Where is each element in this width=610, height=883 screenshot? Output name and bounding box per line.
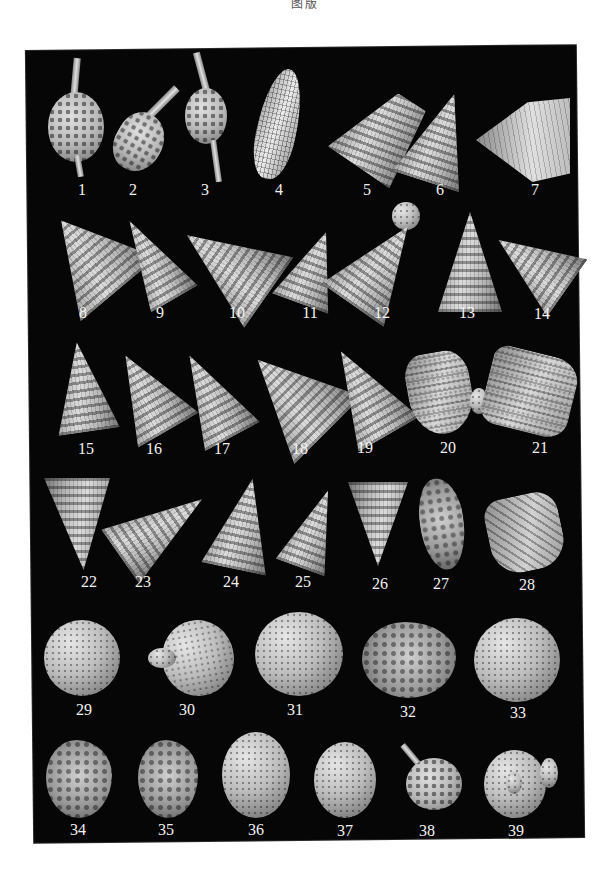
specimen-body-icon <box>255 612 343 696</box>
specimen-body-icon <box>185 88 227 144</box>
specimen-label-8: 8 <box>79 305 87 321</box>
specimen-label-20: 20 <box>440 440 456 456</box>
specimen-label-27: 27 <box>433 576 449 592</box>
specimen-body-icon <box>44 620 120 696</box>
central-boss-icon <box>506 772 522 794</box>
specimen-label-21: 21 <box>532 440 548 456</box>
specimen-label-2: 2 <box>129 182 137 198</box>
specimen-label-23: 23 <box>135 574 151 590</box>
specimen-body-icon <box>314 742 376 818</box>
specimen-label-24: 24 <box>223 574 239 590</box>
specimen-label-9: 9 <box>156 305 164 321</box>
specimen-process-icon <box>148 648 176 668</box>
specimen-label-37: 37 <box>337 823 353 839</box>
specimen-label-11: 11 <box>302 305 317 321</box>
specimen-label-14: 14 <box>534 306 550 322</box>
specimen-label-30: 30 <box>179 702 195 718</box>
specimen-label-19: 19 <box>357 440 373 456</box>
specimen-label-12: 12 <box>374 305 390 321</box>
plate-header: 图版 <box>0 0 610 12</box>
specimen-label-31: 31 <box>287 702 303 718</box>
specimen-cap-icon <box>392 202 420 230</box>
specimen-label-16: 16 <box>146 441 162 457</box>
specimen-label-10: 10 <box>229 305 245 321</box>
specimen-process-icon <box>540 758 558 788</box>
specimen-body-icon <box>406 758 462 810</box>
specimen-label-15: 15 <box>78 441 94 457</box>
specimen-label-5: 5 <box>363 182 371 198</box>
specimen-label-7: 7 <box>531 182 539 198</box>
specimen-label-29: 29 <box>76 702 92 718</box>
specimen-label-25: 25 <box>295 574 311 590</box>
specimen-label-28: 28 <box>519 577 535 593</box>
specimen-label-1: 1 <box>78 182 86 198</box>
specimen-label-13: 13 <box>459 305 475 321</box>
specimen-label-3: 3 <box>201 182 209 198</box>
specimen-label-39: 39 <box>508 823 524 839</box>
specimen-label-35: 35 <box>158 822 174 838</box>
specimen-label-32: 32 <box>400 704 416 720</box>
specimen-label-6: 6 <box>436 182 444 198</box>
specimen-label-33: 33 <box>510 705 526 721</box>
specimen-label-26: 26 <box>372 576 388 592</box>
specimen-label-36: 36 <box>248 822 264 838</box>
specimen-body-icon <box>222 732 290 818</box>
specimen-body-icon <box>474 618 560 702</box>
specimen-label-38: 38 <box>419 823 435 839</box>
specimen-label-4: 4 <box>275 182 283 198</box>
specimen-label-34: 34 <box>70 822 86 838</box>
specimen-body-icon <box>48 92 104 162</box>
specimen-label-22: 22 <box>81 574 97 590</box>
specimen-label-17: 17 <box>214 441 230 457</box>
specimen-label-18: 18 <box>292 441 308 457</box>
